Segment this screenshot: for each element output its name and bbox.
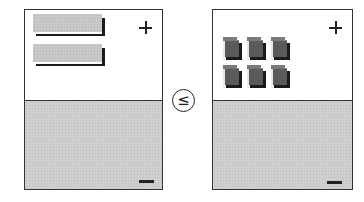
left-panel-negative-region — [25, 101, 162, 189]
right-panel-negative-region — [213, 101, 352, 189]
less-than-or-equal-icon: ≤ — [172, 89, 195, 112]
comparison-symbol: ≤ — [177, 93, 190, 108]
tens-bar — [33, 44, 102, 62]
unit-cube — [247, 68, 263, 85]
minus-icon — [327, 181, 342, 184]
left-panel-positive-region — [25, 10, 162, 101]
unit-cube — [223, 40, 239, 57]
unit-cube — [271, 68, 287, 85]
unit-cube — [247, 40, 263, 57]
plus-icon — [139, 21, 152, 34]
right-panel-positive-region — [213, 10, 352, 101]
left-panel — [24, 9, 163, 190]
plus-icon — [329, 21, 342, 34]
tens-bar — [33, 14, 102, 32]
unit-cube — [223, 68, 239, 85]
right-panel — [212, 9, 353, 190]
unit-cube — [271, 40, 287, 57]
minus-icon — [139, 180, 154, 183]
